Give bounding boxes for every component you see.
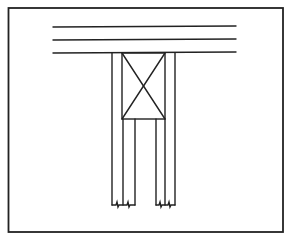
outer-frame	[9, 8, 284, 232]
horizontal-line-top	[53, 26, 236, 27]
post	[112, 53, 175, 207]
horizontal-members	[53, 26, 236, 53]
horizontal-line-middle	[53, 39, 236, 40]
framing-diagram	[0, 0, 289, 235]
